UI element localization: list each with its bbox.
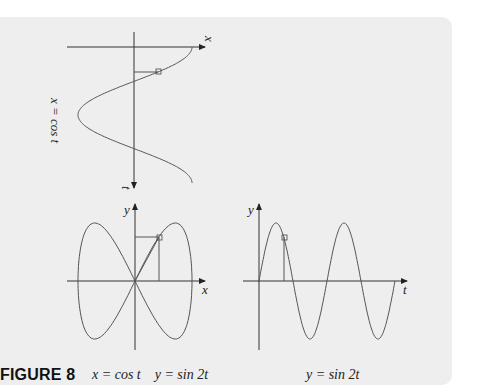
bottom-left-graph: y x [67,202,208,350]
bottom-left-caption: x = cos t y = sin 2t [92,367,208,383]
top-curve-label: x = cos t [48,97,63,144]
top-cos-curve [78,47,192,183]
bottom-right-graph: y t [243,202,407,350]
bottom-right-caption: y = sin 2t [306,367,359,383]
figure-label: FIGURE 8 [0,366,75,384]
bl-marker-diagonal [135,237,159,281]
top-t-label: t [119,186,134,190]
top-x-label: x [202,35,217,42]
br-t-label: t [403,282,407,297]
br-y-label: y [246,202,254,217]
bl-y-label: y [122,202,130,217]
bl-x-label: x [201,282,208,297]
figure-graphics: x t x = cos t y x y t [0,0,477,391]
top-graph: x t x = cos t [48,32,217,190]
